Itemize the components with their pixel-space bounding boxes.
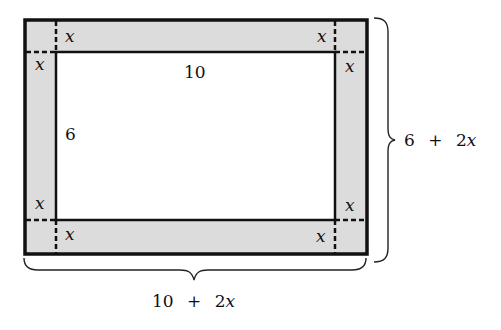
outer-height-op: + [428, 130, 442, 150]
label-x-top-left-v: x [35, 54, 45, 74]
label-x-top-left-h: x [65, 26, 75, 46]
label-outer-height: 6 + 2x [404, 130, 477, 150]
label-outer-width: 10 + 2x [152, 291, 236, 311]
bottom-brace [24, 258, 366, 280]
outer-width-var: x [226, 291, 236, 311]
outer-height-var: x [467, 130, 477, 150]
label-x-top-right-h: x [317, 26, 327, 46]
label-inner-height: 6 [65, 124, 76, 144]
right-brace [374, 18, 395, 262]
outer-width-a: 10 [152, 291, 174, 311]
diagram-canvas: x x x x x x x x 10 6 6 + 2x 10 + 2x [0, 0, 501, 330]
outer-width-b: 2 [215, 291, 226, 311]
label-x-bottom-right-h: x [316, 226, 326, 246]
corner-dashes [26, 21, 366, 253]
outer-width-op: + [187, 291, 201, 311]
label-x-bottom-right-v: x [345, 195, 355, 215]
outer-height-a: 6 [404, 130, 415, 150]
label-x-top-right-v: x [345, 56, 355, 76]
outer-height-b: 2 [456, 130, 467, 150]
label-x-bottom-left-h: x [65, 224, 75, 244]
label-x-bottom-left-v: x [35, 193, 45, 213]
label-inner-width: 10 [184, 62, 206, 82]
